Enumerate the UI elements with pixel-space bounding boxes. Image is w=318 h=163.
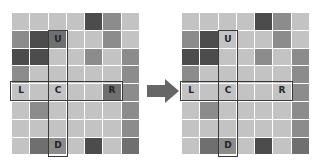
left-cell-r5-c0 (12, 102, 29, 119)
right-cell-r1-c6 (292, 31, 309, 48)
left-cell-r6-c4 (85, 120, 102, 137)
right-cell-r7-c4 (255, 138, 272, 155)
right-cell-r6-c6 (292, 120, 309, 137)
left-label-down: D (49, 137, 67, 154)
left-cell-r6-c1 (30, 120, 47, 137)
right-arrow-icon (147, 79, 179, 103)
left-cell-r5-c3 (67, 102, 84, 119)
right-cell-r7-c3 (237, 138, 254, 155)
left-cell-r7-c3 (67, 138, 84, 155)
left-cell-r2-c6 (122, 49, 139, 66)
right-cell-r6-c3 (237, 120, 254, 137)
right-cell-r7-c1 (200, 138, 217, 155)
left-cell-r6-c0 (12, 120, 29, 137)
left-cell-r7-c6 (122, 138, 139, 155)
right-cell-r0-c6 (292, 13, 309, 30)
left-cell-r7-c0 (12, 138, 29, 155)
right-cell-r6-c5 (273, 120, 290, 137)
right-cell-r2-c5 (273, 49, 290, 66)
right-cell-r1-c3 (237, 31, 254, 48)
left-cell-r0-c6 (122, 13, 139, 30)
right-cell-r6-c0 (182, 120, 199, 137)
right-cell-r5-c6 (292, 102, 309, 119)
right-cell-r6-c4 (255, 120, 272, 137)
right-cell-r2-c4 (255, 49, 272, 66)
right-cell-r7-c0 (182, 138, 199, 155)
right-cell-r7-c6 (292, 138, 309, 155)
right-cell-r4-c6 (292, 84, 309, 101)
right-cell-r0-c1 (200, 13, 217, 30)
left-cell-r6-c5 (103, 120, 120, 137)
right-cell-r6-c1 (200, 120, 217, 137)
right-cell-r2-c0 (182, 49, 199, 66)
right-cell-r5-c0 (182, 102, 199, 119)
left-cell-r5-c6 (122, 102, 139, 119)
left-cell-r7-c4 (85, 138, 102, 155)
right-cell-r1-c4 (255, 31, 272, 48)
left-cell-r1-c6 (122, 31, 139, 48)
left-cell-r0-c5 (103, 13, 120, 30)
left-cell-r0-c3 (67, 13, 84, 30)
right-cell-r2-c6 (292, 49, 309, 66)
right-cell-r7-c5 (273, 138, 290, 155)
right-cell-r5-c5 (273, 102, 290, 119)
left-cell-r5-c4 (85, 102, 102, 119)
right-label-right: R (273, 82, 291, 99)
right-cell-r0-c5 (273, 13, 290, 30)
left-label-right: R (103, 82, 121, 99)
right-label-center: C (219, 82, 237, 99)
left-cell-r2-c3 (67, 49, 84, 66)
right-cell-r0-c4 (255, 13, 272, 30)
right-cell-r3-c6 (292, 66, 309, 83)
right-cell-r1-c0 (182, 31, 199, 48)
left-label-center: C (49, 82, 67, 99)
left-cell-r0-c4 (85, 13, 102, 30)
left-cell-r6-c6 (122, 120, 139, 137)
left-cell-r2-c1 (30, 49, 47, 66)
left-cell-r2-c4 (85, 49, 102, 66)
right-cell-r2-c3 (237, 49, 254, 66)
left-cell-r1-c5 (103, 31, 120, 48)
left-cell-r2-c0 (12, 49, 29, 66)
left-cell-r0-c2 (49, 13, 66, 30)
left-cell-r1-c4 (85, 31, 102, 48)
right-label-left: L (182, 82, 200, 99)
left-cell-r5-c5 (103, 102, 120, 119)
right-cell-r5-c3 (237, 102, 254, 119)
right-cell-r5-c1 (200, 102, 217, 119)
left-label-left: L (12, 82, 30, 99)
right-cell-r0-c0 (182, 13, 199, 30)
left-cell-r7-c5 (103, 138, 120, 155)
left-cell-r1-c1 (30, 31, 47, 48)
right-label-up: U (219, 31, 237, 48)
left-cell-r0-c1 (30, 13, 47, 30)
left-cell-r5-c1 (30, 102, 47, 119)
left-cell-r6-c3 (67, 120, 84, 137)
left-cell-r1-c0 (12, 31, 29, 48)
left-cell-r2-c5 (103, 49, 120, 66)
left-cell-r3-c6 (122, 66, 139, 83)
left-label-up: U (49, 31, 67, 48)
right-cell-r5-c4 (255, 102, 272, 119)
right-cell-r0-c3 (237, 13, 254, 30)
right-label-down: D (219, 137, 237, 154)
left-cell-r4-c6 (122, 84, 139, 101)
right-cell-r2-c1 (200, 49, 217, 66)
left-cell-r1-c3 (67, 31, 84, 48)
right-cell-r0-c2 (219, 13, 236, 30)
right-cell-r1-c5 (273, 31, 290, 48)
left-cell-r7-c1 (30, 138, 47, 155)
right-cell-r1-c1 (200, 31, 217, 48)
left-cell-r0-c0 (12, 13, 29, 30)
